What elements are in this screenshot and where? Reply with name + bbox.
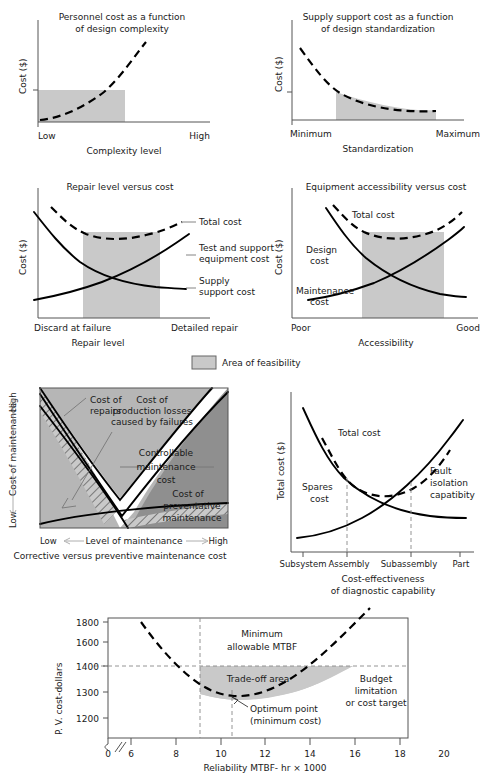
ann-controllable-2: maintenance: [137, 462, 196, 472]
legend-area-of-feasibility: Area of feasibility: [192, 356, 301, 369]
label-spares-1: Spares: [302, 482, 333, 492]
xtick-label-high: High: [208, 536, 228, 546]
y-axis-label: Cost ($): [18, 239, 28, 275]
xtick-label-12: 12: [259, 749, 270, 759]
ytick-label-1600: 1600: [76, 638, 99, 648]
ann-budget-line1: Budget: [360, 674, 393, 684]
ann-budget-line3: or cost target: [346, 698, 407, 708]
ytick-label-1300: 1300: [76, 688, 99, 698]
x-axis-label: Complexity level: [86, 146, 161, 156]
label-test-support-2: equipment cost: [199, 254, 270, 264]
x-axis-label: Repair level: [71, 338, 124, 348]
ann-production-losses-3: caused by failures: [111, 417, 193, 427]
xtick-label-0: 0: [105, 749, 111, 759]
x-axis-label-line2: of diagnostic capability: [331, 586, 436, 596]
label-fault-1: Fault: [430, 466, 452, 476]
panel-repair-level: Repair level versus cost Cost ($) Total …: [18, 182, 274, 348]
ann-optimum-line1: Optimum point: [250, 704, 318, 714]
panel-reliability-mtbf: 1800 1600 1400 1300 1200 P. V. cost-doll…: [54, 608, 450, 773]
ann-budget-line2: limitation: [355, 686, 398, 696]
ann-optimum-line2: (minimum cost): [250, 716, 321, 726]
xticks: [303, 552, 460, 557]
ann-minimum-line1: Minimum: [241, 629, 283, 639]
xtick-label-low: Low: [38, 131, 56, 141]
legend-label: Area of feasibility: [222, 358, 301, 368]
y-axis-label: Cost ($): [274, 239, 284, 275]
panel-corrective-vs-preventive: Cost of maintenance Low High Low Level o…: [8, 388, 228, 561]
panel-diagnostic-capability: Total cost ($) Total cost Spares cost Fa…: [276, 392, 475, 596]
label-fault-2: isolation: [430, 478, 468, 488]
xtick-label-discard: Discard at failure: [34, 323, 111, 333]
label-test-support-1: Test and support: [198, 243, 274, 253]
xtick-label-good: Good: [456, 323, 480, 333]
ann-minimum-line2: allowable MTBF: [227, 642, 297, 652]
panel-caption: Corrective versus preventive maintenance…: [13, 551, 227, 561]
x-axis-label-line1: Cost-effectiveness: [342, 574, 425, 584]
panel-supply-support-cost: Supply support cost as a function of des…: [274, 12, 480, 154]
ytick-label-1400: 1400: [76, 662, 99, 672]
shade-area-feasibility: [336, 92, 436, 120]
ytick-label-1200: 1200: [76, 714, 99, 724]
xtick-label-low: Low: [40, 536, 57, 546]
label-total-cost: Total cost: [351, 210, 395, 220]
ann-preventative-2: preventative: [163, 501, 221, 511]
label-supply-support-1: Supply: [199, 276, 230, 286]
ann-tradeoff-area: Trade-off area: [226, 674, 290, 684]
figure-root: Personnel cost as a function of design c…: [0, 0, 483, 774]
panel-personnel-cost: Personnel cost as a function of design c…: [18, 12, 210, 156]
y-axis-label: Total cost ($): [276, 442, 286, 501]
xtick-label-max: Maximum: [436, 129, 480, 139]
ann-cost-of-repairs-1: Cost of: [90, 395, 122, 405]
xtick-label-detailed: Detailed repair: [171, 323, 238, 333]
xtick-label-16: 16: [349, 749, 361, 759]
xtick-label-min: Minimum: [290, 129, 332, 139]
panel-title-line2: of design complexity: [75, 24, 169, 34]
panel-title: Equipment accessibility versus cost: [306, 182, 467, 192]
x-arrow-left: [64, 538, 84, 544]
xtick-label-14: 14: [304, 749, 316, 759]
ann-controllable-1: Controllable: [139, 448, 194, 458]
xtick-label-part: Part: [453, 559, 470, 569]
x-axis-label: Standardization: [343, 144, 414, 154]
panel-title-line2: of design standardization: [321, 24, 435, 34]
xtick-label-high: High: [189, 131, 210, 141]
y-axis-label: Cost ($): [274, 56, 284, 92]
label-total-cost: Total cost: [337, 428, 381, 438]
y-axis-label: Cost ($): [18, 58, 28, 94]
axis-break-slashes: [115, 742, 126, 752]
ytick-label-1800: 1800: [76, 618, 99, 628]
x-axis-label: Accessibility: [358, 338, 414, 348]
xtick-label-10: 10: [215, 749, 227, 759]
y-axis-label: P. V. cost-dollars: [54, 662, 64, 735]
panel-title-line1: Supply support cost as a function: [303, 12, 454, 22]
ann-preventative-3: maintenance: [163, 513, 222, 523]
xtick-label-6: 6: [128, 749, 134, 759]
panel-title: Repair level versus cost: [66, 182, 174, 192]
label-maintenance-1: Maintenance: [296, 286, 354, 296]
label-design-1: Design: [306, 245, 337, 255]
xtick-label-subassembly: Subassembly: [381, 559, 438, 569]
xtick-label-20: 20: [438, 749, 450, 759]
label-design-2: cost: [310, 256, 329, 266]
ann-preventative-1: Cost of: [172, 489, 204, 499]
ann-production-losses-1: Cost of: [136, 395, 168, 405]
label-fault-3: capatibity: [430, 490, 475, 500]
shade-area-feasibility: [362, 232, 444, 318]
label-total-cost: Total cost: [198, 217, 242, 227]
xtick-label-subsystem: Subsystem: [280, 559, 327, 569]
figure-svg: Personnel cost as a function of design c…: [0, 0, 483, 774]
label-maintenance-2: cost: [310, 297, 329, 307]
xtick-label-poor: Poor: [291, 323, 311, 333]
panel-equipment-accessibility: Equipment accessibility versus cost Cost…: [274, 182, 480, 348]
legend-swatch: [192, 356, 216, 369]
ann-controllable-3: cost: [157, 475, 176, 485]
ann-production-losses-2: production losses: [113, 406, 192, 416]
x-ticks: [131, 738, 400, 745]
y-ticks: [103, 622, 108, 718]
xtick-label-18: 18: [394, 749, 406, 759]
label-spares-2: cost: [310, 494, 329, 504]
xtick-label-assembly: Assembly: [329, 559, 370, 569]
label-supply-support-2: support cost: [199, 287, 256, 297]
x-arrow-right: [186, 538, 208, 544]
panel-title-line1: Personnel cost as a function: [59, 12, 186, 22]
